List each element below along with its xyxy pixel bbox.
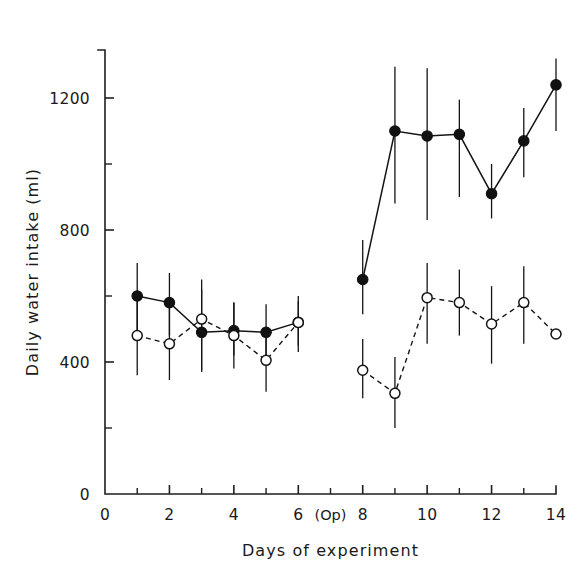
data-point-open [390, 388, 400, 398]
series-line-dashed [137, 319, 298, 360]
data-point-open [197, 314, 207, 324]
data-point-open [293, 317, 303, 327]
data-point-filled [486, 189, 496, 199]
axis-spines [98, 50, 556, 494]
x-tick-label: 4 [229, 506, 239, 524]
tick-labels-group: 0400800120002468101214(Op) [49, 90, 566, 525]
tick-marks-group [105, 98, 524, 494]
data-point-open [164, 339, 174, 349]
y-tick-label: 800 [60, 222, 91, 240]
data-point-open [551, 329, 561, 339]
data-series-group [132, 58, 561, 428]
y-axis-title: Daily water intake (ml) [23, 168, 42, 376]
data-point-open [519, 298, 529, 308]
data-point-filled [519, 136, 529, 146]
x-tick-label: 0 [100, 506, 110, 524]
data-point-open [229, 331, 239, 341]
data-point-open [358, 365, 368, 375]
data-point-filled [454, 129, 464, 139]
data-point-filled [422, 131, 432, 141]
x-tick-label: 10 [417, 506, 437, 524]
series-open-circles [132, 263, 561, 428]
data-point-open [422, 293, 432, 303]
data-point-filled [358, 274, 368, 284]
axes-group [98, 50, 556, 494]
x-tick-label: 14 [546, 506, 566, 524]
data-point-open [454, 298, 464, 308]
x-tick-label: 6 [293, 506, 303, 524]
data-point-filled [551, 80, 561, 90]
x-axis-title: Days of experiment [242, 541, 419, 560]
y-tick-label: 400 [60, 354, 91, 372]
figure-container: 0400800120002468101214(Op) Days of exper… [0, 0, 588, 583]
chart-canvas: 0400800120002468101214(Op) Days of exper… [0, 0, 588, 583]
y-tick-label: 0 [80, 486, 90, 504]
y-tick-label: 1200 [49, 90, 90, 108]
x-tick-label: 12 [481, 506, 501, 524]
x-tick-label: 2 [164, 506, 174, 524]
data-point-open [487, 319, 497, 329]
data-point-open [132, 331, 142, 341]
x-tick-label: 8 [358, 506, 368, 524]
x-axis-op-annotation: (Op) [315, 507, 347, 523]
data-point-open [261, 355, 271, 365]
data-point-filled [390, 126, 400, 136]
